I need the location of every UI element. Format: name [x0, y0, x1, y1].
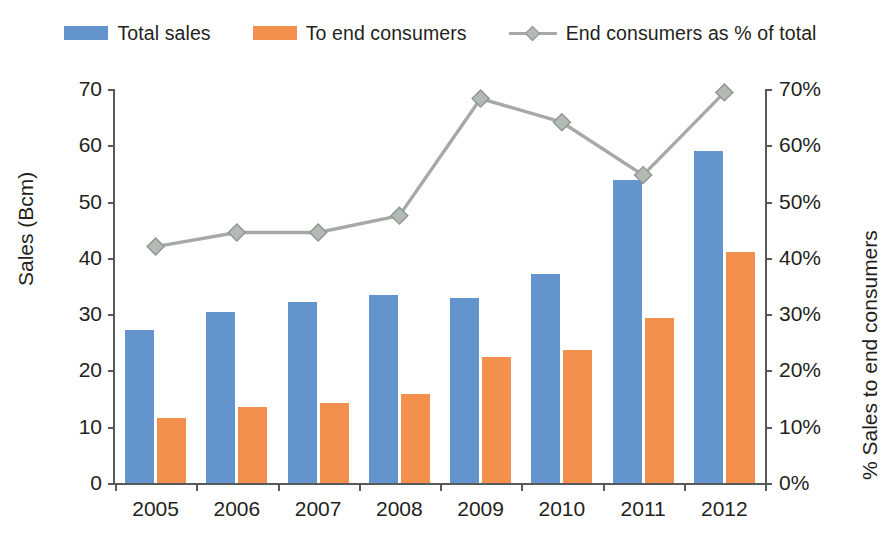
y-axis-left-tick-label: 0 [90, 471, 102, 495]
y-axis-left-tick [108, 370, 115, 372]
line-diamond-marker-icon [509, 26, 557, 40]
x-axis-tick [278, 483, 280, 491]
square-swatch-icon [64, 26, 108, 40]
y-axis-right-tick [765, 202, 772, 204]
y-axis-left-tick-label: 60 [79, 133, 102, 157]
y-axis-left-tick-label: 70 [79, 77, 102, 101]
y-axis-left-tick [108, 427, 115, 429]
y-axis-left-tick-label: 50 [79, 190, 102, 214]
x-axis-tick-label: 2009 [457, 497, 504, 521]
x-axis-tick [521, 483, 523, 491]
y-axis-right-tick-label: 30% [779, 302, 821, 326]
y-axis-right-tick [765, 370, 772, 372]
y-axis-left-tick [108, 89, 115, 91]
y-axis-left-tick [108, 314, 115, 316]
line-series-group: End consumers as % of total 2005: 42%End… [115, 89, 765, 483]
y-axis-left-tick [108, 483, 115, 485]
x-axis-tick [765, 483, 767, 491]
y-axis-right-tick [765, 145, 772, 147]
legend-item-end-consumers-pct: End consumers as % of total [509, 22, 817, 45]
chart-legend: Total sales To end consumers End consume… [0, 16, 881, 50]
y-axis-left-tick-label: 20 [79, 358, 102, 382]
line-marker-2010: End consumers as % of total 2010: 64.1% [553, 114, 570, 131]
line-marker-2005: End consumers as % of total 2005: 42% [147, 238, 164, 255]
y-axis-left-tick-label: 30 [79, 302, 102, 326]
y-axis-left-tick-label: 10 [79, 415, 102, 439]
y-axis-right-tick-label: 60% [779, 133, 821, 157]
y-axis-right-tick [765, 427, 772, 429]
y-axis-left-tick [108, 258, 115, 260]
x-axis-tick [684, 483, 686, 491]
y-axis-right-tick-label: 10% [779, 415, 821, 439]
legend-item-total-sales: Total sales [64, 22, 210, 45]
y-axis-left-tick [108, 202, 115, 204]
legend-label-total-sales: Total sales [117, 22, 210, 45]
x-axis-tick-label: 2005 [132, 497, 179, 521]
y-axis-left-tick-label: 40 [79, 246, 102, 270]
y-axis-left-tick [108, 145, 115, 147]
legend-label-to-end-consumers: To end consumers [306, 22, 467, 45]
plot-area: 010203040506070 0%10%20%30%40%50%60%70% … [113, 89, 767, 485]
x-axis-tick-label: 2010 [539, 497, 586, 521]
y-axis-right-title: % Sales to end consumers [858, 230, 881, 480]
y-axis-right-tick [765, 258, 772, 260]
y-axis-right-tick-label: 20% [779, 358, 821, 382]
y-axis-right-tick [765, 89, 772, 91]
x-axis-tick-label: 2011 [621, 497, 666, 521]
x-axis-tick-label: 2012 [701, 497, 748, 521]
x-axis-tick-label: 2007 [295, 497, 342, 521]
square-swatch-icon [253, 26, 297, 40]
x-axis-tick [603, 483, 605, 491]
line-marker-2007: End consumers as % of total 2007: 44.5% [310, 224, 327, 241]
line-path-end-consumers-pct [156, 92, 725, 246]
x-axis-tick-label: 2006 [214, 497, 261, 521]
x-axis-tick [440, 483, 442, 491]
y-axis-right-tick-label: 0% [779, 471, 809, 495]
legend-item-to-end-consumers: To end consumers [253, 22, 467, 45]
x-axis-tick [196, 483, 198, 491]
x-axis-tick [115, 483, 117, 491]
y-axis-right-tick-label: 70% [779, 77, 821, 101]
legend-label-end-consumers-pct: End consumers as % of total [566, 22, 817, 45]
y-axis-left-title: Sales (Bcm) [14, 172, 38, 286]
x-axis-tick [359, 483, 361, 491]
x-axis-tick-label: 2008 [376, 497, 423, 521]
line-marker-2006: End consumers as % of total 2006: 44.5% [228, 224, 245, 241]
y-axis-right-tick [765, 314, 772, 316]
y-axis-right-tick-label: 40% [779, 246, 821, 270]
y-axis-right-tick-label: 50% [779, 190, 821, 214]
dual-axis-bar-line-chart: Total sales To end consumers End consume… [0, 0, 881, 547]
